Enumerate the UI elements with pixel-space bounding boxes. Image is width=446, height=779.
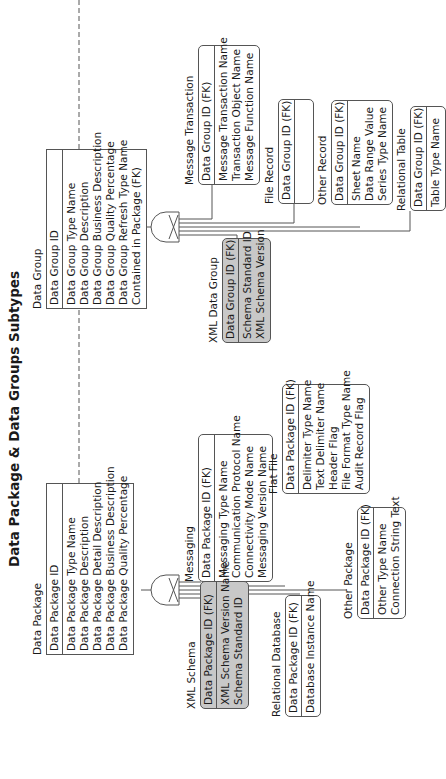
- entity-name: File Record: [263, 99, 276, 204]
- attribute: Schema Standard ID: [232, 585, 245, 705]
- entity-name: XML Data Group: [207, 238, 220, 343]
- attribute: Schema Standard ID: [241, 242, 254, 339]
- entity-name: Flat File: [267, 384, 280, 494]
- attribute: Data Package Business Description: [104, 487, 117, 651]
- entity-xml-schema[interactable]: XML Schema Data Package ID (FK) XML Sche…: [185, 581, 249, 709]
- primary-key: Data Package ID (FK): [199, 435, 215, 581]
- attribute: Delimiter Type Name: [301, 388, 314, 490]
- entity-relational-table[interactable]: Relational Table Data Group ID (FK) Tabl…: [395, 106, 446, 211]
- entity-other-record[interactable]: Other Record Data Group ID (FK) Sheet Na…: [316, 100, 393, 205]
- attribute: Data Group Description: [78, 153, 91, 305]
- attribute: Text Delimiter Name: [314, 388, 327, 490]
- primary-key: Data Group ID (FK): [199, 46, 215, 184]
- attribute: Contained in Package (FK): [130, 153, 143, 305]
- attribute: Messaging Type Name: [217, 438, 230, 578]
- primary-key: Data Package ID (FK): [358, 508, 374, 618]
- primary-key: Data Package ID (FK): [201, 582, 217, 708]
- primary-key: Data Group ID (FK): [332, 101, 348, 204]
- entity-relational-database[interactable]: Relational Database Data Package ID (FK)…: [270, 595, 321, 717]
- attribute: Message Function Name: [243, 49, 256, 181]
- attribute: Sheet Name: [350, 104, 363, 201]
- primary-key: Data Package ID (FK): [286, 596, 302, 716]
- attribute: Audit Record Flag: [353, 388, 366, 490]
- entity-data-package[interactable]: Data Package Data Package ID Data Packag…: [31, 483, 134, 655]
- primary-key: Data Group ID (FK): [223, 239, 239, 342]
- attribute: Data Group Type Name: [65, 153, 78, 305]
- attribute: Data Package Type Name: [65, 487, 78, 651]
- primary-key: Data Package ID: [47, 484, 63, 654]
- attribute: Transaction Object Name: [230, 49, 243, 181]
- entity-flat-file[interactable]: Flat File Data Package ID (FK) Delimiter…: [267, 384, 370, 494]
- primary-key: Data Group ID (FK): [411, 107, 427, 210]
- entity-messaging[interactable]: Messaging Data Package ID (FK) Messaging…: [183, 434, 273, 582]
- entity-name: XML Schema: [185, 581, 198, 709]
- entity-name: Data Package: [31, 483, 44, 655]
- attribute: XML Schema Version: [254, 242, 267, 339]
- attribute: Data Group Business Description: [91, 153, 104, 305]
- primary-key: Data Package ID (FK): [283, 385, 299, 493]
- attribute: Data Group Refresh Type Name: [117, 153, 130, 305]
- attribute: Data Range Value: [363, 104, 376, 201]
- primary-key: Data Group ID (FK): [279, 100, 295, 203]
- entity-message-transaction[interactable]: Message Transaction Data Group ID (FK) M…: [183, 45, 260, 185]
- attribute: Database Instance Name: [304, 599, 317, 713]
- entity-name: Other Package: [342, 507, 355, 619]
- entity-name: Relational Database: [270, 595, 283, 717]
- attribute: Data Package Quality Percentage: [117, 487, 130, 651]
- primary-key: Data Group ID: [47, 150, 63, 308]
- entity-file-record[interactable]: File Record Data Group ID (FK): [263, 99, 314, 204]
- entity-name: Message Transaction: [183, 45, 196, 185]
- entity-xml-data-group[interactable]: XML Data Group Data Group ID (FK) Schema…: [207, 238, 271, 343]
- entity-other-package[interactable]: Other Package Data Package ID (FK) Other…: [342, 507, 406, 619]
- attribute: Data Package Description: [78, 487, 91, 651]
- empty-attributes: [295, 100, 313, 203]
- attribute: XML Schema Version Name: [219, 585, 232, 705]
- attribute: File Format Type Name: [340, 388, 353, 490]
- entity-name: Messaging: [183, 434, 196, 582]
- attribute: Connection String Text: [389, 511, 402, 615]
- attribute: Communication Protocol Name: [230, 438, 243, 578]
- diagram-title: Data Package & Data Groups Subtypes: [6, 271, 22, 567]
- entity-data-group[interactable]: Data Group Data Group ID Data Group Type…: [31, 149, 147, 309]
- attribute: Message Transaction Name: [217, 49, 230, 181]
- attribute: Header Flag: [327, 388, 340, 490]
- attribute: Connectivity Mode Name: [243, 438, 256, 578]
- entity-name: Data Group: [31, 149, 44, 309]
- attribute: Data Package Detail Description: [91, 487, 104, 651]
- attribute: Series Type Name: [376, 104, 389, 201]
- entity-name: Relational Table: [395, 106, 408, 211]
- entity-name: Other Record: [316, 100, 329, 205]
- attribute: Other Type Name: [376, 511, 389, 615]
- attribute: Table Type Name: [429, 110, 442, 207]
- attribute: Data Group Quality Percentage: [104, 153, 117, 305]
